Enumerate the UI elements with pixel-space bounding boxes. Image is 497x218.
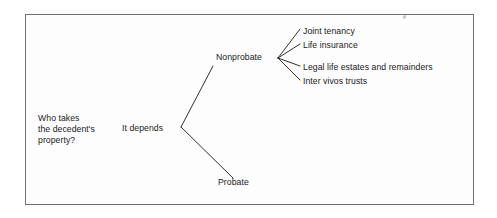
- edge-nonprobate-to-inter-vivos-trusts: [278, 58, 300, 80]
- root-question-line-3: property?: [38, 135, 95, 146]
- root-question: Who takes the decedent's property?: [38, 113, 95, 147]
- edge-nonprobate-to-joint-tenancy: [278, 29, 300, 58]
- diagram-page: Who takes the decedent's property? It de…: [0, 0, 497, 218]
- root-question-line-1: Who takes: [38, 113, 95, 124]
- edge-itdepends-to-probate: [181, 127, 233, 178]
- edge-nonprobate-to-legal-life-estates: [278, 58, 300, 66]
- edge-nonprobate-to-life-insurance: [278, 44, 300, 58]
- leaf-legal-life-estates-and-remainders: Legal life estates and remainders: [303, 62, 433, 73]
- node-nonprobate: Nonprobate: [216, 52, 262, 63]
- leaf-inter-vivos-trusts: Inter vivos trusts: [303, 76, 367, 87]
- root-question-line-2: the decedent's: [38, 124, 95, 135]
- leaf-joint-tenancy: Joint tenancy: [303, 26, 355, 37]
- edge-itdepends-to-nonprobate: [181, 66, 213, 127]
- node-probate: Probate: [218, 177, 249, 188]
- leaf-life-insurance: Life insurance: [303, 40, 358, 51]
- node-it-depends: It depends: [122, 123, 163, 134]
